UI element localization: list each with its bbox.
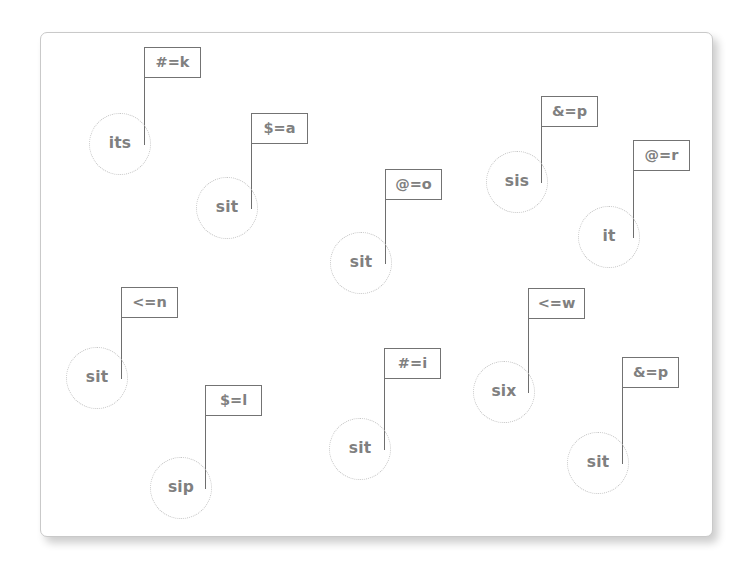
flag-label: <=w [538, 296, 576, 311]
marker-layer: its#=ksit$=asit@=osis&=pit@=rsit<=nsip$=… [0, 0, 755, 566]
node-label: its [109, 136, 132, 152]
node-circle[interactable]: six [473, 361, 535, 423]
node-label: sit [349, 441, 372, 457]
flag-label: @=o [395, 177, 432, 192]
flag-label: &=p [633, 365, 668, 380]
node-label: sit [86, 370, 109, 386]
node-label: sit [350, 255, 373, 271]
node-label: sip [168, 480, 194, 496]
node-label: sis [505, 174, 529, 190]
flag-label: #=k [156, 55, 190, 70]
node-label: it [602, 229, 615, 245]
node-label: sit [587, 455, 610, 471]
node-circle[interactable]: sit [330, 232, 392, 294]
node-circle[interactable]: sit [567, 432, 629, 494]
flag-box[interactable]: &=p [541, 96, 598, 127]
flag-label: #=i [398, 356, 427, 371]
flag-box[interactable]: #=k [144, 47, 201, 78]
node-label: sit [216, 200, 239, 216]
flag-box[interactable]: #=i [384, 348, 441, 379]
flag-box[interactable]: &=p [622, 357, 679, 388]
flag-label: <=n [132, 295, 167, 310]
flag-label: $=l [220, 393, 247, 408]
flag-box[interactable]: @=o [385, 169, 442, 200]
node-circle[interactable]: its [89, 113, 151, 175]
node-circle[interactable]: sit [329, 418, 391, 480]
flag-box[interactable]: <=n [121, 287, 178, 318]
node-circle[interactable]: sip [150, 457, 212, 519]
node-circle[interactable]: sit [196, 177, 258, 239]
node-label: six [491, 384, 516, 400]
flag-box[interactable]: <=w [528, 288, 585, 319]
node-circle[interactable]: it [578, 206, 640, 268]
flag-box[interactable]: $=l [205, 385, 262, 416]
flag-label: &=p [552, 104, 587, 119]
node-circle[interactable]: sit [66, 347, 128, 409]
flag-label: $=a [263, 121, 295, 136]
node-circle[interactable]: sis [486, 151, 548, 213]
scene-canvas: its#=ksit$=asit@=osis&=pit@=rsit<=nsip$=… [0, 0, 755, 566]
flag-box[interactable]: @=r [633, 140, 690, 171]
flag-label: @=r [645, 148, 679, 163]
flag-box[interactable]: $=a [251, 113, 308, 144]
